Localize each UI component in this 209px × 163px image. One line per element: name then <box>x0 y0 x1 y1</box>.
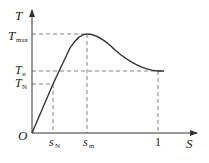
y-tick-tst: T st <box>15 63 26 77</box>
sn-sub: N <box>55 142 60 150</box>
sm-sub: m <box>89 142 95 150</box>
y-axis-label: T <box>15 8 23 23</box>
x-tick-sm: s m <box>83 135 95 150</box>
x-tick-1: 1 <box>155 135 161 149</box>
tn-sub: N <box>22 83 27 91</box>
torque-slip-diagram: T S O T max T st T N s N s m 1 <box>0 0 209 163</box>
sm-main: s <box>83 135 88 149</box>
one-label: 1 <box>155 135 161 149</box>
sn-main: s <box>49 135 54 149</box>
torque-curve <box>32 34 164 133</box>
y-tick-tn: T N <box>15 76 27 91</box>
x-axis-label: S <box>186 136 193 151</box>
tmax-main: T <box>8 28 16 43</box>
x-tick-sn: s N <box>49 135 60 150</box>
origin-label: O <box>18 128 28 143</box>
y-tick-tmax: T max <box>8 28 29 44</box>
guide-lines <box>32 34 164 133</box>
tmax-sub: max <box>16 36 29 44</box>
tst-sub: st <box>22 71 26 77</box>
